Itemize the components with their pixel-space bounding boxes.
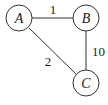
node-c: C xyxy=(73,70,99,96)
edge-a-c xyxy=(29,28,76,74)
node-b: B xyxy=(73,5,99,31)
edge-a-c-weight: 2 xyxy=(45,54,52,69)
node-a-label: A xyxy=(14,11,24,26)
node-a: A xyxy=(6,5,32,31)
weighted-graph: 1 2 10 A B C xyxy=(0,0,108,105)
edge-b-c-weight: 10 xyxy=(92,44,105,59)
node-b-label: B xyxy=(82,11,91,26)
node-c-label: C xyxy=(81,76,91,91)
edge-a-b-weight: 1 xyxy=(50,2,57,17)
